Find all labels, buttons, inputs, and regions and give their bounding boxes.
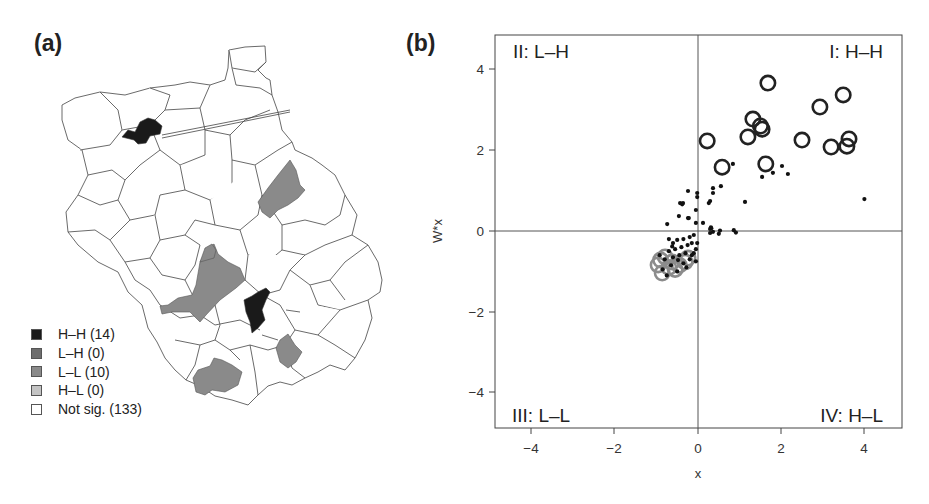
- x-tick-label: 2: [777, 441, 785, 456]
- y-tick-label: 0: [476, 224, 484, 239]
- data-point: [862, 197, 866, 201]
- data-point: [677, 253, 681, 257]
- data-point: [760, 175, 764, 179]
- data-point: [701, 221, 705, 225]
- x-tick-label: −4: [523, 441, 539, 456]
- data-point: [661, 267, 665, 271]
- data-point: [671, 255, 675, 259]
- quadrant-label-iii: III: L–L: [512, 405, 570, 426]
- data-point: [687, 216, 691, 220]
- data-point: [680, 202, 684, 206]
- hh-significant-point: [741, 130, 755, 144]
- data-point: [708, 231, 712, 235]
- data-point: [695, 195, 699, 199]
- data-point: [695, 241, 699, 245]
- hh-significant-point: [813, 100, 827, 114]
- data-point: [686, 243, 690, 247]
- data-point: [694, 259, 698, 263]
- data-point: [718, 229, 722, 233]
- data-point: [731, 162, 735, 166]
- moran-scatterplot: −4 −2 0 2 4 4 2 0 −2 −4 x W*x II: L–H I:…: [0, 0, 929, 504]
- data-point: [690, 253, 694, 257]
- data-point: [677, 214, 681, 218]
- data-point: [708, 227, 712, 231]
- y-axis: [489, 69, 495, 392]
- data-point: [667, 249, 671, 253]
- y-axis-title: W*x: [430, 219, 445, 243]
- hh-significant-point: [715, 160, 729, 174]
- x-tick-label: 4: [860, 441, 868, 456]
- data-point: [707, 201, 711, 205]
- data-point: [665, 273, 669, 277]
- x-tick-label: 0: [694, 441, 702, 456]
- data-point: [780, 164, 784, 168]
- point-markers: [658, 162, 867, 278]
- data-point: [667, 237, 671, 241]
- data-point: [711, 186, 715, 190]
- hh-significant-point: [761, 76, 775, 90]
- data-point: [665, 222, 669, 226]
- y-tick-label: 2: [476, 143, 484, 158]
- y-tick-label: −2: [469, 305, 484, 320]
- data-point: [683, 251, 687, 255]
- data-point: [786, 172, 790, 176]
- hh-significant-point: [759, 157, 773, 171]
- hh-significant-point: [824, 140, 838, 154]
- data-point: [719, 184, 723, 188]
- data-point: [676, 258, 680, 262]
- quadrant-label-ii: II: L–H: [513, 41, 569, 62]
- data-point: [681, 237, 685, 241]
- quadrant-label-iv: IV: H–L: [820, 405, 883, 426]
- data-point: [694, 208, 698, 212]
- y-tick-label: −4: [469, 385, 485, 400]
- data-point: [686, 189, 690, 193]
- data-point: [694, 221, 698, 225]
- data-point: [743, 200, 747, 204]
- x-axis: [531, 428, 864, 434]
- data-point: [690, 241, 694, 245]
- data-point: [694, 247, 698, 251]
- data-point: [688, 235, 692, 239]
- data-point: [679, 245, 683, 249]
- hh-circle-markers: [700, 76, 856, 174]
- data-point: [688, 257, 692, 261]
- data-point: [684, 265, 688, 269]
- data-point: [663, 257, 667, 261]
- data-point: [734, 231, 738, 235]
- data-point: [695, 191, 699, 195]
- data-point: [675, 238, 679, 242]
- data-point: [711, 191, 715, 195]
- data-point: [681, 261, 685, 265]
- data-point: [771, 171, 775, 175]
- x-axis-title: x: [695, 466, 702, 481]
- x-tick-label: −2: [606, 441, 621, 456]
- data-point: [658, 253, 662, 257]
- data-point: [692, 233, 696, 237]
- y-tick-label: 4: [476, 62, 484, 77]
- hh-significant-point: [700, 134, 714, 148]
- data-point: [669, 263, 673, 267]
- data-point: [670, 244, 674, 248]
- data-point: [675, 269, 679, 273]
- quadrant-label-i: I: H–H: [829, 41, 883, 62]
- hh-significant-point: [836, 88, 850, 102]
- hh-significant-point: [795, 133, 809, 147]
